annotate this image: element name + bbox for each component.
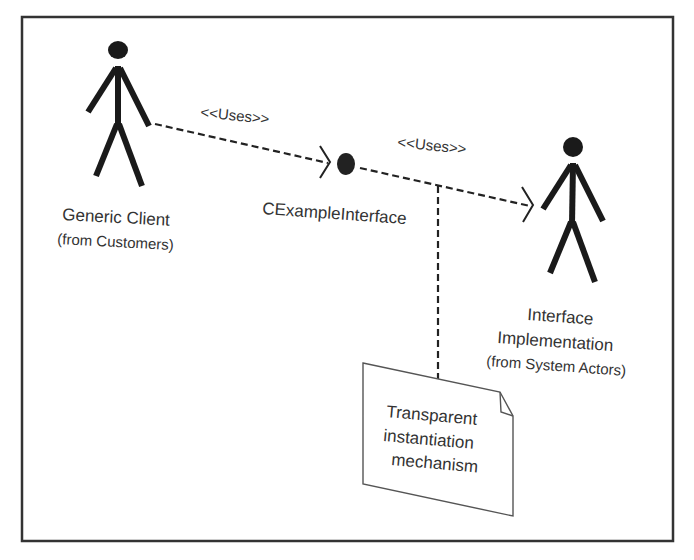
interface-name: CExampleInterface [262, 199, 408, 228]
actor-generic-client-name: Generic Client [62, 205, 171, 230]
uses-relation-1-stereotype: <<Uses>> [200, 103, 271, 127]
actor-interface-implementation-name-line2: Implementation [497, 328, 614, 355]
diagram-canvas: Generic Client (from Customers) <<Uses>>… [0, 0, 694, 560]
interface-lollipop-icon[interactable] [337, 153, 355, 175]
actor-generic-client-icon[interactable] [88, 41, 149, 186]
uses-relation-2-stereotype: <<Uses>> [397, 133, 468, 157]
actor-interface-implementation-package: (from System Actors) [486, 352, 627, 379]
uses-relation-2-line[interactable] [360, 168, 530, 206]
actor-interface-implementation-name-line1: Interface [527, 305, 594, 329]
actor-interface-implementation-icon[interactable] [543, 137, 603, 282]
uses-relation-1-line[interactable] [155, 124, 328, 163]
actor-generic-client-package: (from Customers) [57, 230, 174, 253]
